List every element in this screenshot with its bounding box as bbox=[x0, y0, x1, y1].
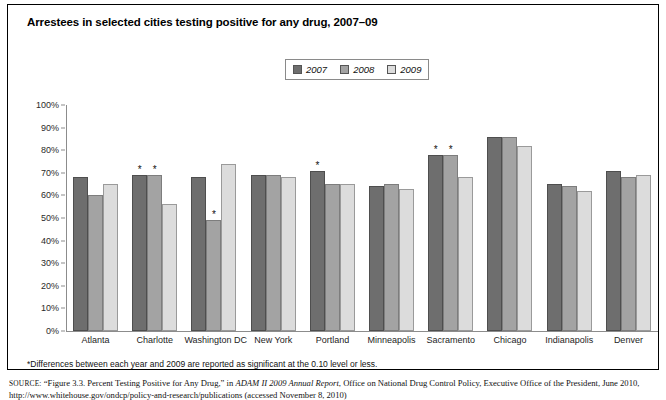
bar-charlotte-2008: * bbox=[147, 175, 162, 331]
bar-denver-2009 bbox=[636, 175, 651, 331]
plot-area: 100%90%80%70%60%50%40%30%20%10%0%Atlanta… bbox=[66, 105, 658, 331]
bar-atlanta-2009 bbox=[103, 184, 118, 331]
x-axis-line bbox=[66, 331, 658, 332]
bar-group-bars: ** bbox=[421, 105, 480, 331]
significance-asterisk: * bbox=[212, 210, 216, 220]
bar-group-bars bbox=[540, 105, 599, 331]
bar-group: Indianapolis bbox=[540, 105, 599, 331]
bar-sacramento-2008: * bbox=[443, 155, 458, 331]
bar-chicago-2007 bbox=[487, 137, 502, 331]
y-axis-tick-mark bbox=[61, 195, 65, 196]
bar-indianapolis-2007 bbox=[547, 184, 562, 331]
source-title-italic: ADAM II 2009 Annual Report bbox=[235, 378, 338, 388]
bar-group: **Sacramento bbox=[421, 105, 480, 331]
bar-group-bars bbox=[244, 105, 303, 331]
legend-label-2009: 2009 bbox=[400, 65, 421, 75]
x-axis-label-charlotte: Charlotte bbox=[125, 335, 184, 345]
y-axis-tick-mark bbox=[61, 127, 65, 128]
page-title: Arrestees in selected cities testing pos… bbox=[27, 16, 378, 28]
legend-label-2007: 2007 bbox=[306, 65, 327, 75]
legend-swatch-2007 bbox=[293, 65, 302, 74]
bar-group: **Charlotte bbox=[125, 105, 184, 331]
bar-charlotte-2009 bbox=[162, 204, 177, 331]
x-axis-label-sacramento: Sacramento bbox=[421, 335, 480, 345]
bar-group: *Portland bbox=[303, 105, 362, 331]
chart-footnote: *Differences between each year and 2009 … bbox=[27, 359, 377, 369]
bar-portland-2008 bbox=[325, 184, 340, 331]
bar-group-bars bbox=[66, 105, 125, 331]
x-axis-label-portland: Portland bbox=[303, 335, 362, 345]
significance-asterisk: * bbox=[138, 165, 142, 175]
bar-group: *Washington DC bbox=[184, 105, 243, 331]
bar-new-york-2008 bbox=[266, 175, 281, 331]
figure-container: Arrestees in selected cities testing pos… bbox=[0, 0, 666, 400]
y-axis-tick-mark bbox=[61, 105, 65, 106]
y-axis-tick-mark bbox=[61, 172, 65, 173]
y-axis-tick-mark bbox=[61, 150, 65, 151]
y-axis-tick-mark bbox=[61, 240, 65, 241]
bar-indianapolis-2008 bbox=[562, 186, 577, 331]
legend-swatch-2009 bbox=[387, 65, 396, 74]
bar-charlotte-2007: * bbox=[132, 175, 147, 331]
bar-washington-dc-2009 bbox=[221, 164, 236, 331]
significance-asterisk: * bbox=[315, 161, 319, 171]
legend-swatch-2008 bbox=[340, 65, 349, 74]
bar-minneapolis-2007 bbox=[369, 186, 384, 331]
bar-denver-2007 bbox=[606, 171, 621, 331]
bar-washington-dc-2008: * bbox=[206, 220, 221, 331]
x-axis-label-denver: Denver bbox=[599, 335, 658, 345]
y-axis-tick-mark bbox=[61, 331, 65, 332]
bar-new-york-2007 bbox=[251, 175, 266, 331]
bar-minneapolis-2008 bbox=[384, 184, 399, 331]
bar-group-bars: * bbox=[184, 105, 243, 331]
y-axis-tick-mark bbox=[61, 285, 65, 286]
legend-item-2009: 2009 bbox=[387, 65, 421, 75]
chart-frame: Arrestees in selected cities testing pos… bbox=[7, 4, 659, 370]
significance-asterisk: * bbox=[153, 165, 157, 175]
bar-chicago-2009 bbox=[517, 146, 532, 331]
legend-item-2008: 2008 bbox=[340, 65, 374, 75]
chart-legend: 200720082009 bbox=[285, 59, 429, 80]
bar-indianapolis-2009 bbox=[577, 191, 592, 331]
significance-asterisk: * bbox=[434, 145, 438, 155]
significance-asterisk: * bbox=[449, 145, 453, 155]
x-axis-label-atlanta: Atlanta bbox=[66, 335, 125, 345]
bar-group: Chicago bbox=[480, 105, 539, 331]
bar-group-bars: * bbox=[303, 105, 362, 331]
x-axis-label-minneapolis: Minneapolis bbox=[362, 335, 421, 345]
bar-sacramento-2009 bbox=[458, 177, 473, 331]
y-axis-tick-mark bbox=[61, 218, 65, 219]
source-text-part1: “Figure 3.3. Percent Testing Positive fo… bbox=[44, 378, 236, 388]
bar-denver-2008 bbox=[621, 177, 636, 331]
bar-group: New York bbox=[244, 105, 303, 331]
bar-group: Minneapolis bbox=[362, 105, 421, 331]
bar-group-bars bbox=[480, 105, 539, 331]
bar-new-york-2009 bbox=[281, 177, 296, 331]
bar-portland-2007: * bbox=[310, 171, 325, 331]
x-axis-label-washington-dc: Washington DC bbox=[184, 335, 243, 345]
source-label: SOURCE: bbox=[9, 379, 42, 388]
bar-atlanta-2007 bbox=[73, 177, 88, 331]
bar-minneapolis-2009 bbox=[399, 189, 414, 331]
legend-label-2008: 2008 bbox=[353, 65, 374, 75]
x-axis-label-chicago: Chicago bbox=[480, 335, 539, 345]
source-text-part2: , Office on National Drug Control Policy… bbox=[339, 378, 542, 388]
bar-sacramento-2007: * bbox=[428, 155, 443, 331]
bar-washington-dc-2007 bbox=[191, 177, 206, 331]
bar-group-bars bbox=[362, 105, 421, 331]
bar-atlanta-2008 bbox=[88, 195, 103, 331]
bar-group-bars bbox=[599, 105, 658, 331]
bar-group: Denver bbox=[599, 105, 658, 331]
y-axis-tick-mark bbox=[61, 263, 65, 264]
legend-item-2007: 2007 bbox=[293, 65, 327, 75]
source-note: SOURCE: “Figure 3.3. Percent Testing Pos… bbox=[9, 378, 659, 400]
bar-group: Atlanta bbox=[66, 105, 125, 331]
bar-chicago-2008 bbox=[502, 137, 517, 331]
bar-portland-2009 bbox=[340, 184, 355, 331]
y-axis-tick-mark bbox=[61, 308, 65, 309]
x-axis-label-new-york: New York bbox=[244, 335, 303, 345]
x-axis-label-indianapolis: Indianapolis bbox=[540, 335, 599, 345]
bar-group-bars: ** bbox=[125, 105, 184, 331]
